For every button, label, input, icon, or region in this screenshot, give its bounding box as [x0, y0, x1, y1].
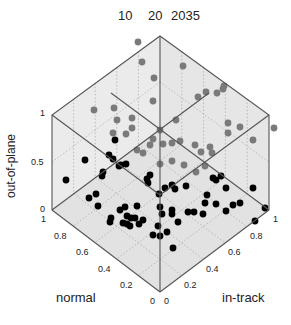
data-point [183, 183, 190, 190]
data-point [63, 177, 70, 184]
data-point [123, 131, 130, 138]
data-point [135, 39, 142, 46]
data-point [237, 200, 244, 207]
data-point [200, 211, 207, 218]
y-axis-label: normal [56, 290, 96, 305]
y-tick-0.2: 0.2 [120, 280, 133, 290]
data-point [225, 120, 232, 127]
data-point [93, 191, 100, 198]
data-point [185, 209, 192, 216]
z-tick-1: 1 [40, 108, 45, 118]
data-point [193, 169, 200, 176]
y-tick-0.4: 0.4 [98, 264, 111, 274]
data-point [250, 185, 257, 192]
data-point [191, 209, 198, 216]
data-point [170, 245, 177, 252]
data-point [147, 142, 154, 149]
data-point [213, 201, 220, 208]
data-point [95, 203, 102, 210]
x-tick-0.8: 0.8 [250, 231, 263, 241]
x-tick-0.4: 0.4 [206, 264, 219, 274]
data-point [129, 125, 136, 132]
z-axis-label: out-of-plane [4, 134, 18, 198]
plot-area [0, 0, 291, 325]
data-point [123, 161, 130, 168]
data-point [134, 203, 141, 210]
scatter-3d-chart: 10 20 2035 out-of-plane 1 0.5 0 1 0.8 0.… [0, 0, 291, 325]
data-point [160, 141, 167, 148]
data-point [169, 211, 176, 218]
data-point [169, 158, 176, 165]
data-point [82, 157, 89, 164]
data-point [162, 185, 169, 192]
data-point [128, 215, 135, 222]
z-tick-0: 0 [40, 204, 45, 214]
data-point [177, 138, 184, 145]
data-point [139, 59, 146, 66]
data-point [86, 195, 93, 202]
x-tick-1: 1 [273, 214, 278, 224]
data-point [111, 105, 118, 112]
data-point [117, 207, 124, 214]
data-point [223, 208, 230, 215]
data-point [169, 140, 176, 147]
data-point [225, 130, 232, 137]
data-point [204, 192, 211, 199]
data-point [180, 63, 187, 70]
data-point [140, 217, 147, 224]
data-point [271, 125, 278, 132]
data-point [134, 147, 141, 154]
data-point [114, 117, 121, 124]
data-point [198, 149, 205, 156]
data-point [91, 107, 98, 114]
data-point [192, 142, 199, 149]
y-tick-0.6: 0.6 [76, 247, 89, 257]
x-tick-0.6: 0.6 [228, 247, 241, 257]
top-label-20: 20 [148, 8, 162, 23]
y-tick-1: 1 [41, 214, 46, 224]
data-point [120, 220, 127, 227]
data-point [107, 219, 114, 226]
top-label-2035: 2035 [171, 8, 200, 23]
data-point [237, 124, 244, 131]
data-point [151, 75, 158, 82]
data-point [214, 90, 221, 97]
data-point [145, 180, 152, 187]
x-tick-0.2: 0.2 [184, 280, 197, 290]
y-tick-0: 0 [150, 296, 155, 306]
y-tick-0.8: 0.8 [54, 231, 67, 241]
data-point [110, 130, 117, 137]
top-label-10: 10 [118, 8, 132, 23]
x-axis-label: in-track [222, 290, 265, 305]
data-point [140, 150, 147, 157]
data-point [172, 186, 179, 193]
data-point [150, 232, 157, 239]
data-point [112, 137, 119, 144]
data-point [203, 89, 210, 96]
x-tick-0: 0 [164, 296, 169, 306]
data-point [230, 202, 237, 209]
data-point [202, 200, 209, 207]
data-point [223, 185, 230, 192]
z-tick-0.5: 0.5 [31, 157, 44, 167]
data-point [181, 162, 188, 169]
data-point [207, 144, 214, 151]
data-point [150, 98, 157, 105]
data-point [250, 137, 257, 144]
data-point [175, 219, 182, 226]
data-point [129, 115, 136, 122]
data-point [164, 229, 171, 236]
